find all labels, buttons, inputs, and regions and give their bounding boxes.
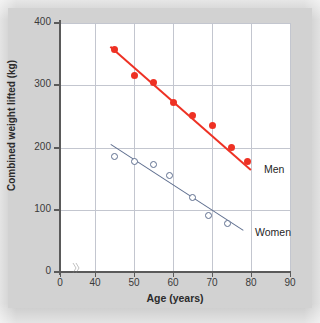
data-point-men (111, 46, 118, 53)
gridline-x-50 (134, 23, 135, 272)
x-tick-label-60: 60 (161, 277, 185, 288)
y-tick-label-400: 400 (17, 16, 51, 27)
data-point-men (209, 122, 216, 129)
data-point-men (170, 99, 177, 106)
data-point-men (189, 112, 196, 119)
y-axis-title: Combined weight lifted (kg) (6, 51, 17, 201)
x-axis-line (59, 271, 291, 273)
y-tick-label-300: 300 (17, 78, 51, 89)
y-tick-label-0: 0 (17, 265, 51, 276)
data-point-men (150, 79, 157, 86)
gridline-x-60 (173, 23, 174, 272)
y-tick-200 (54, 147, 59, 149)
data-point-men (131, 72, 138, 79)
figure-container: 4003002001000 0405060708090 Combined wei… (0, 0, 320, 323)
axis-break-icon (71, 262, 81, 274)
data-point-men (228, 144, 235, 151)
gridline-x-70 (212, 23, 213, 272)
y-tick-400 (54, 22, 59, 24)
y-tick-label-200: 200 (17, 141, 51, 152)
y-tick-0 (54, 271, 59, 273)
x-tick-label-40: 40 (83, 277, 107, 288)
x-axis-title: Age (years) (60, 292, 290, 304)
series-label-men: Men (264, 163, 284, 175)
data-point-women (131, 158, 138, 165)
y-tick-label-100: 100 (17, 203, 51, 214)
trend-line-women (110, 144, 243, 231)
trend-line-men (109, 46, 251, 171)
x-tick-label-50: 50 (122, 277, 146, 288)
x-tick-label-80: 80 (239, 277, 263, 288)
data-point-women (166, 172, 173, 179)
gridline-x-40 (95, 23, 96, 272)
x-tick-label-0: 0 (48, 277, 72, 288)
y-tick-100 (54, 209, 59, 211)
data-point-men (244, 158, 251, 165)
gridline-x-80 (251, 23, 252, 272)
series-label-women: Women (255, 226, 291, 238)
data-point-women (111, 153, 118, 160)
x-tick-label-70: 70 (200, 277, 224, 288)
data-point-women (189, 194, 196, 201)
y-tick-300 (54, 84, 59, 86)
data-point-women (205, 212, 212, 219)
data-point-women (150, 161, 157, 168)
data-point-women (224, 220, 231, 227)
y-axis-line (59, 20, 61, 275)
x-tick-label-90: 90 (278, 277, 302, 288)
